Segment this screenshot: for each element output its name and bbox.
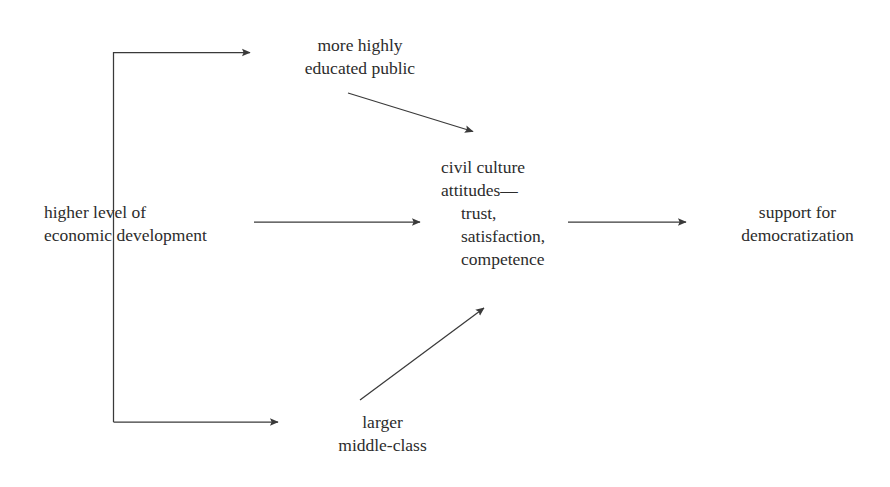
node-support-democratization-line-2: democratization: [715, 224, 880, 247]
edge-educated-public-to-civil-culture: [348, 93, 473, 132]
node-support-democratization: support for democratization: [715, 201, 880, 247]
edge-middle-class-to-civil-culture: [360, 308, 484, 400]
node-middle-class-line-1: larger: [300, 411, 465, 434]
node-civil-culture-line-2: attitudes—: [441, 179, 591, 202]
node-support-democratization-line-1: support for: [715, 201, 880, 224]
node-educated-public: more highly educated public: [270, 34, 450, 80]
node-economic-development: higher level of economic development: [44, 201, 207, 247]
node-middle-class-line-2: middle-class: [300, 434, 465, 457]
node-civil-culture-line-5: competence: [441, 248, 591, 271]
node-economic-development-line-2: economic development: [44, 224, 207, 247]
node-civil-culture-line-1: civil culture: [441, 156, 591, 179]
node-civil-culture: civil culture attitudes— trust, satisfac…: [441, 156, 591, 271]
node-civil-culture-line-3: trust,: [441, 202, 591, 225]
node-economic-development-line-1: higher level of: [44, 201, 207, 224]
diagram-canvas: higher level of economic development mor…: [0, 0, 890, 487]
node-civil-culture-line-4: satisfaction,: [441, 225, 591, 248]
node-educated-public-line-1: more highly: [270, 34, 450, 57]
node-middle-class: larger middle-class: [300, 411, 465, 457]
node-educated-public-line-2: educated public: [270, 57, 450, 80]
